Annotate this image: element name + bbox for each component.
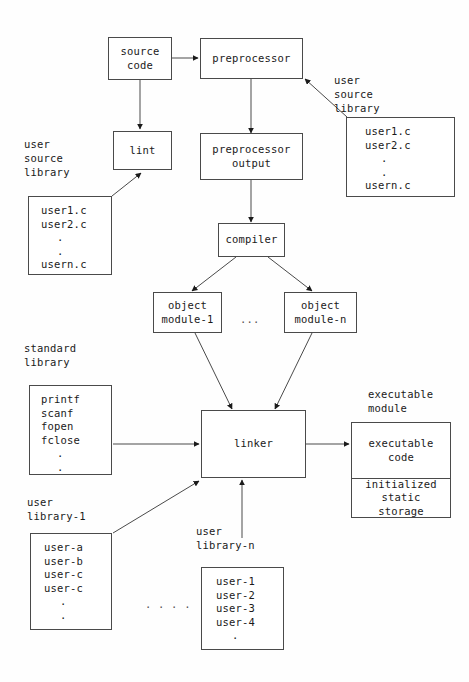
list-item: .	[44, 609, 67, 623]
node-executable-code: executable code	[352, 423, 450, 478]
list-user-source-library-left: user1.c user2.c . . usern.c	[28, 196, 112, 275]
list-item: user-4	[216, 616, 255, 630]
program-build-diagram: source code preprocessor user source lib…	[0, 0, 469, 682]
node-static-storage-line-3: storage	[378, 505, 424, 519]
list-item: .	[41, 231, 64, 245]
caption-executable-module: executable module	[368, 387, 433, 415]
list-item: .	[44, 595, 67, 609]
list-item: usern.c	[365, 179, 411, 193]
node-object-module-1-line-2: module-1	[161, 313, 213, 327]
edge-object-n-to-linker	[275, 333, 312, 409]
node-lint: lint	[113, 131, 172, 170]
node-source-code-line-1: source	[120, 45, 159, 59]
node-static-storage-line-2: static	[381, 491, 420, 505]
node-lint-label: lint	[129, 144, 155, 158]
list-item: user-1	[216, 575, 255, 589]
node-compiler-label: compiler	[225, 233, 277, 247]
caption-user-source-library-left: user source library	[24, 137, 70, 179]
node-object-module-1: object module-1	[153, 292, 222, 333]
node-static-storage-line-1: initialized	[365, 478, 437, 492]
node-source-code: source code	[108, 37, 172, 80]
edge-object-1-to-linker	[195, 333, 232, 409]
list-item: user-2	[216, 589, 255, 603]
list-item: .	[41, 245, 64, 259]
node-preprocessor-label: preprocessor	[212, 52, 290, 66]
caption-standard-library: standard library	[24, 341, 76, 369]
node-object-module-n-line-2: module-n	[294, 313, 346, 327]
node-preprocessor-output-line-1: preprocessor	[212, 143, 290, 157]
list-item: user-a	[44, 541, 83, 555]
node-object-module-n-line-1: object	[301, 299, 340, 313]
list-item: user-b	[44, 555, 83, 569]
list-item: fopen	[41, 420, 74, 434]
list-user-library-1: user-a user-b user-c user-c . .	[30, 533, 112, 630]
list-item: fclose	[41, 434, 80, 448]
list-item: scanf	[41, 407, 74, 421]
node-preprocessor-output: preprocessor output	[200, 133, 303, 180]
list-item: .	[41, 447, 64, 461]
caption-user-source-library-right: user source library	[334, 73, 380, 115]
node-source-code-line-2: code	[127, 59, 153, 73]
list-item: user1.c	[41, 204, 87, 218]
list-item: .	[41, 461, 64, 475]
edge-user-source-library-left-to-lint	[112, 173, 141, 196]
node-preprocessor: preprocessor	[200, 38, 303, 79]
list-standard-library: printf scanf fopen fclose . .	[29, 385, 112, 475]
list-item: user-c	[44, 568, 83, 582]
list-item: printf	[41, 393, 80, 407]
list-user-source-library-right: user1.c user2.c . . usern.c	[346, 117, 455, 197]
node-executable-code-line-1: executable	[368, 437, 433, 451]
node-preprocessor-output-line-2: output	[232, 157, 271, 171]
list-user-library-n: user-1 user-2 user-3 user-4 .	[201, 567, 284, 650]
edge-compiler-to-object-n	[268, 257, 312, 291]
node-compiler: compiler	[218, 223, 285, 257]
node-linker-label: linker	[234, 437, 273, 451]
list-item: user1.c	[365, 125, 411, 139]
list-item: user-3	[216, 602, 255, 616]
list-item: user2.c	[41, 218, 87, 232]
list-item: .	[365, 166, 388, 180]
edge-user-library-1-to-linker	[113, 481, 199, 533]
node-linker: linker	[201, 410, 306, 478]
node-object-module-1-line-1: object	[168, 299, 207, 313]
node-executable-code-line-2: code	[388, 451, 414, 465]
caption-user-library-1: user library-1	[27, 495, 86, 523]
list-item: .	[216, 629, 239, 643]
node-executable-module: executable code initialized static stora…	[351, 422, 451, 518]
list-item: usern.c	[41, 258, 87, 272]
list-item: .	[365, 152, 388, 166]
caption-user-library-n: user library-n	[196, 524, 255, 552]
list-item: user-c	[44, 582, 83, 596]
list-item: user2.c	[365, 139, 411, 153]
node-initialized-static-storage: initialized static storage	[352, 478, 450, 517]
node-object-module-n: object module-n	[284, 292, 357, 333]
ellipsis-between-user-libraries: . . . .	[145, 598, 191, 610]
ellipsis-between-object-modules: ...	[240, 313, 260, 325]
edge-compiler-to-object-1	[192, 257, 236, 291]
